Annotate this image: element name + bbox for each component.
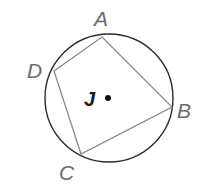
label-j: J — [84, 88, 96, 110]
label-b: B — [177, 99, 191, 122]
quadrilateral-abcd — [54, 37, 172, 154]
label-d: D — [27, 59, 42, 82]
diagram-canvas: A B C D J — [0, 0, 204, 193]
label-a: A — [92, 7, 108, 30]
label-c: C — [59, 161, 75, 184]
center-point-j — [105, 95, 111, 101]
